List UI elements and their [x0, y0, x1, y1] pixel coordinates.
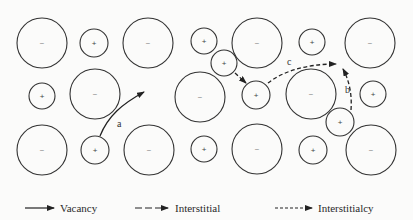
diffusion-path-a: a [100, 92, 144, 136]
anion-circle: − [346, 125, 396, 175]
plus-sign-label: + [40, 92, 45, 101]
minus-sign-label: − [309, 90, 314, 99]
cation-circle: + [81, 136, 109, 164]
diffusion-path-interstitialcy-step [235, 73, 246, 83]
anion-circle: − [286, 69, 336, 119]
anion-circle: − [124, 125, 174, 175]
interstitial-cation-circle: + [211, 50, 237, 76]
minus-sign-label: − [255, 145, 260, 154]
anion-circle: − [17, 125, 67, 175]
cation-circle: + [360, 81, 386, 107]
arrow-icon [235, 73, 246, 83]
legend-item-interstitialcy: Interstitialcy [275, 202, 374, 214]
minus-sign-label: − [368, 39, 373, 48]
ion-lattice: −+−+−+−+−−++−+−+−+−+−+ [17, 18, 396, 175]
legend-label-interstitial: Interstitial [175, 202, 220, 214]
interstitial-cation-circle: + [326, 108, 354, 136]
cation-circle: + [29, 83, 55, 109]
plus-sign-label: + [93, 146, 98, 155]
diffusion-mechanisms-diagram: −+−+−+−+−−++−+−+−+−+−+ abc Vacancy Inter… [0, 0, 413, 220]
legend-item-interstitial: Interstitial [135, 202, 220, 214]
plus-sign-label: + [311, 146, 316, 155]
anion-circle: − [345, 18, 395, 68]
cation-circle: + [242, 81, 270, 109]
cation-circle: + [191, 28, 217, 54]
path-label: a [117, 118, 122, 129]
plus-sign-label: + [202, 37, 207, 46]
diffusion-paths: abc [100, 56, 351, 136]
path-label: b [345, 84, 350, 95]
minus-sign-label: − [40, 39, 45, 48]
minus-sign-label: − [147, 146, 152, 155]
legend-item-vacancy: Vacancy [25, 202, 98, 214]
anion-circle: − [175, 72, 225, 122]
path-label: c [287, 56, 292, 67]
anion-circle: − [232, 124, 282, 174]
plus-sign-label: + [371, 90, 376, 99]
anion-circle: − [232, 18, 282, 68]
legend-label-interstitialcy: Interstitialcy [318, 202, 374, 214]
cation-circle: + [299, 29, 325, 55]
plus-sign-label: + [202, 145, 207, 154]
minus-sign-label: − [198, 93, 203, 102]
plus-sign-label: + [310, 38, 315, 47]
cation-circle: + [80, 29, 108, 57]
diffusion-path-b: b [343, 69, 351, 110]
minus-sign-label: − [369, 146, 374, 155]
plus-sign-label: + [338, 118, 343, 127]
cation-circle: + [191, 136, 217, 162]
legend: Vacancy Interstitial Interstitialcy [25, 202, 374, 214]
minus-sign-label: − [255, 39, 260, 48]
minus-sign-label: − [146, 39, 151, 48]
plus-sign-label: + [254, 91, 259, 100]
anion-circle: − [70, 69, 120, 119]
minus-sign-label: − [40, 146, 45, 155]
cation-circle: + [299, 136, 327, 164]
anion-circle: − [17, 18, 67, 68]
legend-label-vacancy: Vacancy [60, 202, 98, 214]
plus-sign-label: + [92, 39, 97, 48]
plus-sign-label: + [222, 59, 227, 68]
arrow-icon [100, 92, 144, 136]
minus-sign-label: − [93, 90, 98, 99]
diffusion-path-c: c [268, 56, 336, 83]
anion-circle: − [123, 18, 173, 68]
